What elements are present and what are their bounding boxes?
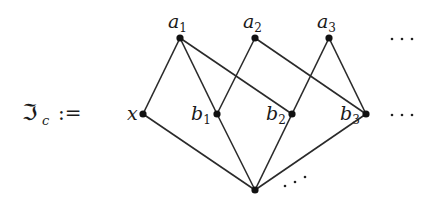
edge-a2-b1 bbox=[217, 38, 255, 114]
label-a2: a2 bbox=[243, 10, 262, 35]
edge-a3-b2 bbox=[292, 38, 329, 114]
node-a2 bbox=[251, 34, 258, 41]
node-x bbox=[139, 110, 146, 117]
node-b3 bbox=[362, 110, 369, 117]
edge-b2-bottom bbox=[255, 114, 292, 190]
fraktur-symbol: ℑ bbox=[22, 100, 37, 125]
defined-as-operator: := bbox=[58, 101, 82, 125]
node-b2 bbox=[288, 110, 295, 117]
node-b1 bbox=[213, 110, 220, 117]
nodes bbox=[139, 34, 369, 193]
node-bottom bbox=[251, 186, 258, 193]
edge-a1-x bbox=[143, 38, 180, 114]
edges bbox=[143, 38, 366, 190]
definition-label: ℑ c := bbox=[22, 100, 82, 128]
ellipsis-middle bbox=[391, 114, 414, 117]
label-a1: a1 bbox=[168, 10, 187, 35]
ellipsis-top bbox=[391, 38, 414, 41]
node-a3 bbox=[325, 34, 332, 41]
label-a3: a3 bbox=[317, 10, 336, 35]
node-labels: a1a2a3xb1b2b3 bbox=[127, 10, 360, 127]
label-b2: b2 bbox=[266, 102, 286, 127]
edge-b3-bottom bbox=[255, 114, 366, 190]
label-b1: b1 bbox=[191, 102, 211, 127]
edge-x-bottom bbox=[143, 114, 255, 190]
ellipsis-bottom-diagonal bbox=[284, 176, 307, 188]
fraktur-subscript: c bbox=[42, 113, 50, 128]
node-a1 bbox=[176, 34, 183, 41]
label-x: x bbox=[127, 102, 138, 124]
edge-b1-bottom bbox=[217, 114, 255, 190]
label-b3: b3 bbox=[340, 102, 360, 127]
lattice-diagram: ℑ c := a1a2a3xb1b2b3 bbox=[0, 0, 436, 206]
